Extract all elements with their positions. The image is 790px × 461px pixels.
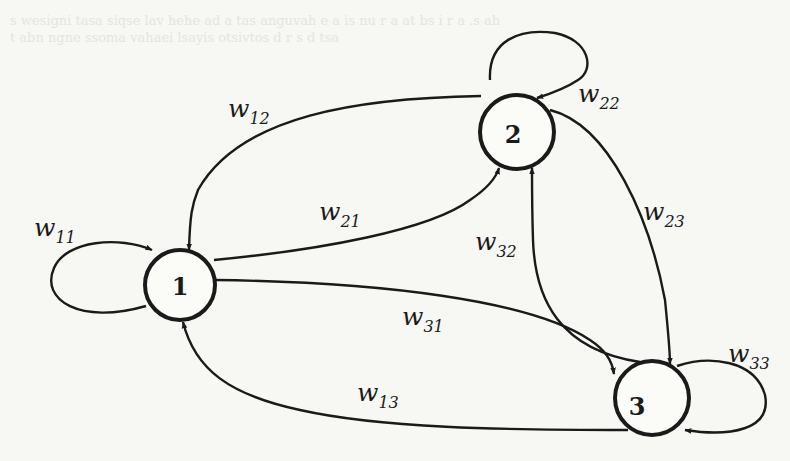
bleed-through-text: s wesigni tasa siqse lav hehe ad a tas a… [10, 13, 501, 45]
edge-w11-self-loop-1 [51, 242, 152, 312]
node-1: 1 [145, 250, 215, 320]
edge-w32-3-to-2 [532, 168, 640, 362]
svg-text:t abn ngne ssoma vahaei lsa: t abn ngne ssoma vahaei lsayis otsivtos … [10, 30, 339, 45]
label-w32: w32 [475, 227, 517, 261]
label-w31: w31 [402, 302, 444, 336]
edge-w13-3-to-1 [183, 322, 628, 430]
label-w13: w13 [357, 378, 399, 412]
edge-w22-self-loop-2 [490, 32, 588, 98]
edge-w23-2-to-3 [550, 110, 670, 364]
node-3-circle [615, 361, 689, 435]
diagram-canvas: s wesigni tasa siqse lav hehe ad a tas a… [0, 0, 790, 461]
node-2: 2 [480, 95, 554, 169]
label-w11: w11 [34, 213, 76, 247]
label-w22: w22 [578, 79, 620, 113]
label-w21: w21 [319, 197, 361, 231]
node-2-label: 2 [505, 120, 522, 149]
label-w23: w23 [643, 197, 685, 231]
node-1-label: 1 [172, 272, 189, 301]
label-w12: w12 [228, 94, 270, 128]
node-3-label: 3 [629, 392, 646, 421]
recurrent-network-diagram: s wesigni tasa siqse lav hehe ad a tas a… [0, 0, 790, 461]
node-3: 3 [615, 361, 689, 435]
svg-text:s wesigni tasa siqse lav hehe: s wesigni tasa siqse lav hehe ad a tas a… [10, 13, 501, 28]
label-w33: w33 [728, 339, 770, 373]
